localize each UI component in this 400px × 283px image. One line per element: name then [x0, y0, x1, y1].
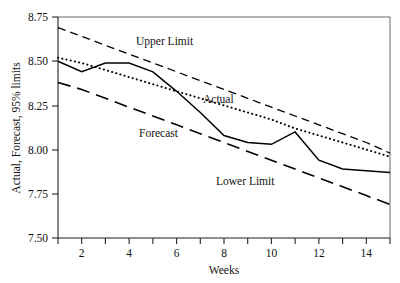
x-tick-label: 6: [174, 247, 180, 259]
y-tick-label: 8.75: [28, 11, 48, 23]
y-axis-ticks: [52, 17, 58, 238]
x-tick-label: 14: [361, 247, 373, 259]
y-axis-title: Actual, Forecast, 95% limits: [10, 62, 23, 194]
y-axis-tick-labels: 8.75 8.50 8.25 8.00 7.75 7.50: [28, 11, 48, 244]
y-tick-label: 8.50: [28, 55, 48, 67]
annotation-upper-limit: Upper Limit: [136, 35, 194, 48]
annotation-forecast: Forecast: [139, 127, 179, 139]
x-tick-label: 4: [126, 247, 132, 259]
y-tick-label: 8.00: [28, 144, 48, 156]
x-axis-tick-labels: 2 4 6 8 10 12 14: [79, 247, 372, 259]
y-tick-label: 8.25: [28, 100, 48, 112]
chart-figure: 8.75 8.50 8.25 8.00 7.75 7.50: [0, 0, 400, 283]
x-tick-label: 2: [79, 247, 85, 259]
x-tick-label: 8: [221, 247, 227, 259]
y-tick-label: 7.50: [28, 232, 48, 244]
series-forecast: [58, 58, 390, 157]
series-upper-limit: [58, 28, 390, 154]
x-axis-title: Weeks: [209, 264, 240, 276]
x-axis-ticks: [58, 238, 390, 244]
x-tick-label: 12: [313, 247, 325, 259]
forecast-line-chart: 8.75 8.50 8.25 8.00 7.75 7.50: [0, 0, 400, 283]
x-tick-label: 10: [266, 247, 278, 259]
series-actual: [58, 61, 390, 172]
y-tick-label: 7.75: [28, 188, 48, 200]
annotation-lower-limit: Lower Limit: [216, 175, 275, 187]
plot-frame: [58, 17, 390, 238]
annotation-actual: Actual: [203, 93, 234, 105]
